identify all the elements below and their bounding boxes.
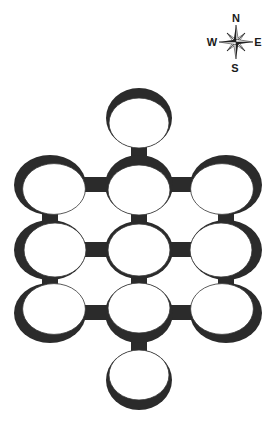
- room-r3-right: [190, 283, 262, 343]
- room-r3-left: [14, 283, 86, 343]
- room-r1-center: [105, 155, 173, 215]
- room-floor: [23, 164, 86, 215]
- room-floor: [108, 165, 170, 215]
- room-r2-right: [190, 220, 262, 280]
- compass-west-label: W: [207, 36, 218, 48]
- room-floor: [24, 223, 86, 277]
- room-floor: [109, 98, 169, 148]
- compass-north-label: N: [232, 12, 240, 24]
- room-bottom: [106, 350, 172, 410]
- room-floor: [191, 164, 254, 215]
- room-floor: [191, 284, 254, 335]
- room-floor: [23, 284, 86, 335]
- dungeon-map: N S E W: [0, 0, 273, 424]
- room-r3-center: [105, 283, 173, 343]
- room-r1-left: [14, 155, 86, 215]
- compass-star-icon: [219, 25, 253, 59]
- room-floor: [108, 283, 170, 333]
- compass-south-label: S: [231, 62, 238, 74]
- room-top: [106, 88, 172, 148]
- room-r2-center: [105, 221, 173, 279]
- rooms: [14, 88, 262, 410]
- room-r2-left: [14, 220, 86, 280]
- room-r1-right: [190, 155, 262, 215]
- room-floor: [108, 224, 170, 276]
- room-floor: [109, 350, 169, 400]
- compass-rose-icon: N S E W: [207, 12, 262, 74]
- room-floor: [190, 223, 252, 277]
- compass-east-label: E: [254, 36, 261, 48]
